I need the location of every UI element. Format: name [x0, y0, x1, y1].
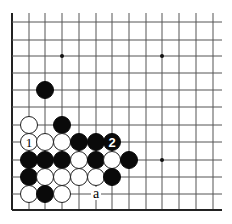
white-stone-disc — [71, 169, 88, 186]
white-stone — [71, 169, 88, 186]
black-stone — [54, 117, 71, 134]
black-stone — [88, 134, 105, 151]
white-stone — [104, 152, 121, 169]
white-stone-disc — [104, 152, 121, 169]
black-stone-disc — [88, 152, 105, 169]
black-stone-disc — [104, 169, 121, 186]
point-marker: a — [91, 186, 101, 201]
white-stone — [54, 169, 71, 186]
black-stone-disc — [54, 117, 71, 134]
black-stone — [54, 152, 71, 169]
black-stone — [21, 152, 38, 169]
markers: a — [91, 186, 101, 201]
black-stone-disc — [88, 134, 105, 151]
black-stone-disc — [71, 134, 88, 151]
hoshi-point — [160, 54, 164, 58]
black-stone: 2 — [104, 134, 121, 151]
black-stone — [37, 82, 54, 99]
white-stone — [37, 134, 54, 151]
black-stone-disc — [121, 152, 138, 169]
black-stone — [104, 169, 121, 186]
black-stone-disc — [37, 186, 54, 203]
white-stone-disc — [21, 117, 38, 134]
marker-letter: a — [93, 186, 100, 201]
black-stone-disc — [37, 152, 54, 169]
black-stone — [37, 186, 54, 203]
black-stone — [21, 169, 38, 186]
go-board-diagram: 12 a — [0, 0, 232, 224]
white-stone — [88, 169, 105, 186]
white-stone-disc — [71, 152, 88, 169]
move-number-label: 1 — [26, 135, 33, 150]
white-stone — [21, 117, 38, 134]
black-stone-disc — [21, 152, 38, 169]
hoshi-point — [160, 158, 164, 162]
white-stone — [37, 169, 54, 186]
white-stone — [54, 134, 71, 151]
white-stone-disc — [37, 169, 54, 186]
white-stone — [71, 152, 88, 169]
black-stone-disc — [54, 152, 71, 169]
white-stone: 1 — [21, 134, 38, 151]
white-stone-disc — [54, 186, 71, 203]
black-stone-disc — [21, 169, 38, 186]
black-stone-disc — [37, 82, 54, 99]
white-stone-disc — [21, 186, 38, 203]
hoshi-point — [60, 54, 64, 58]
black-stone — [37, 152, 54, 169]
black-stone — [121, 152, 138, 169]
white-stone — [21, 186, 38, 203]
white-stone-disc — [37, 134, 54, 151]
white-stone-disc — [54, 134, 71, 151]
black-stone — [88, 152, 105, 169]
white-stone-disc — [88, 169, 105, 186]
black-stone — [71, 134, 88, 151]
white-stone — [54, 186, 71, 203]
white-stone-disc — [54, 169, 71, 186]
move-number-label: 2 — [108, 135, 115, 150]
